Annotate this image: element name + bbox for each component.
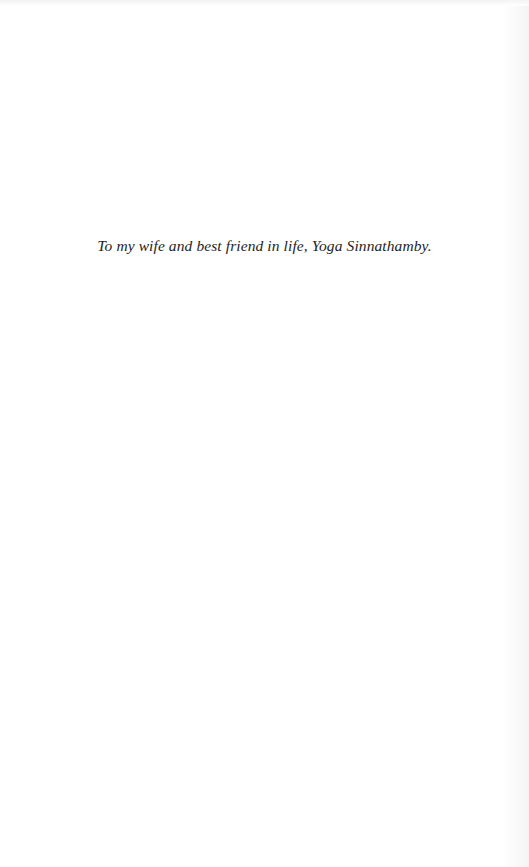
dedication-text: To my wife and best friend in life, Yoga… xyxy=(0,237,529,255)
book-page: To my wife and best friend in life, Yoga… xyxy=(0,0,529,867)
page-top-edge xyxy=(0,0,529,6)
